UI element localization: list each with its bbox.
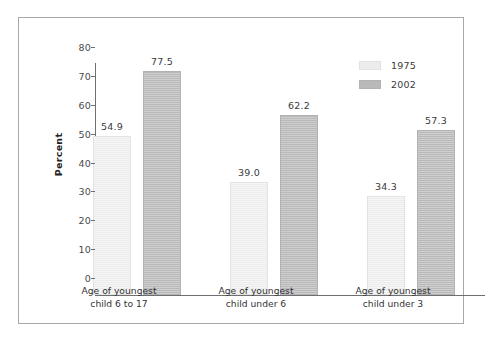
- y-axis-tick-label: 0: [67, 273, 91, 284]
- legend-label: 2002: [391, 79, 416, 90]
- y-axis-tick-label: 30: [67, 186, 91, 197]
- bar-value-label: 57.3: [411, 115, 461, 126]
- legend-swatch-icon: [359, 61, 381, 70]
- bar-1975-group-3: [367, 196, 405, 295]
- y-axis-tick-label: 20: [67, 215, 91, 226]
- y-axis-tick-label: 10: [67, 244, 91, 255]
- y-axis-tick-mark: [91, 76, 95, 77]
- y-axis-tick-label: 40: [67, 157, 91, 168]
- legend-item-1975[interactable]: 1975: [359, 58, 469, 73]
- bar-value-label: 34.3: [361, 181, 411, 192]
- category-label-line: Age of youngest: [49, 285, 189, 298]
- y-axis-tick-mark: [91, 278, 95, 279]
- y-axis-tick-mark: [91, 249, 95, 250]
- bar-1975-group-1: [93, 136, 131, 295]
- y-axis-tick-mark: [91, 220, 95, 221]
- bar-2002-group-1: [143, 71, 181, 295]
- chart-legend: 19752002: [359, 58, 469, 96]
- bar-2002-group-3: [417, 130, 455, 295]
- y-axis-tick-mark: [91, 191, 95, 192]
- y-axis-tick-label: 60: [67, 99, 91, 110]
- bar-value-label: 62.2: [274, 100, 324, 111]
- category-label-line: child 6 to 17: [49, 298, 189, 311]
- bar-value-label: 39.0: [224, 167, 274, 178]
- bar-value-label: 77.5: [137, 56, 187, 67]
- y-axis-tick-label: 80: [67, 42, 91, 53]
- bar-value-label: 54.9: [87, 121, 137, 132]
- y-axis-title: Percent: [53, 110, 64, 200]
- y-axis-tick-mark: [91, 163, 95, 164]
- y-axis-tick-label: 70: [67, 70, 91, 81]
- x-axis-category-label-2: Age of youngestchild under 6: [186, 285, 326, 310]
- chart-frame: 01020304050607080 Percent 54.939.034.377…: [18, 17, 464, 324]
- y-axis-tick-mark: [91, 47, 95, 48]
- legend-label: 1975: [391, 60, 416, 71]
- x-axis-category-label-1: Age of youngestchild 6 to 17: [49, 285, 189, 310]
- category-label-line: Age of youngest: [186, 285, 326, 298]
- legend-swatch-icon: [359, 80, 381, 89]
- category-label-line: child under 6: [186, 298, 326, 311]
- bar-1975-group-2: [230, 182, 268, 295]
- category-label-line: Age of youngest: [323, 285, 463, 298]
- y-axis-tick-mark: [91, 134, 95, 135]
- plot-area: 54.939.034.377.562.257.3: [96, 64, 478, 295]
- bar-2002-group-2: [280, 115, 318, 295]
- legend-item-2002[interactable]: 2002: [359, 77, 469, 92]
- chart-figure: 01020304050607080 Percent 54.939.034.377…: [0, 0, 487, 340]
- category-label-line: child under 3: [323, 298, 463, 311]
- y-axis-tick-mark: [91, 105, 95, 106]
- x-axis-category-label-3: Age of youngestchild under 3: [323, 285, 463, 310]
